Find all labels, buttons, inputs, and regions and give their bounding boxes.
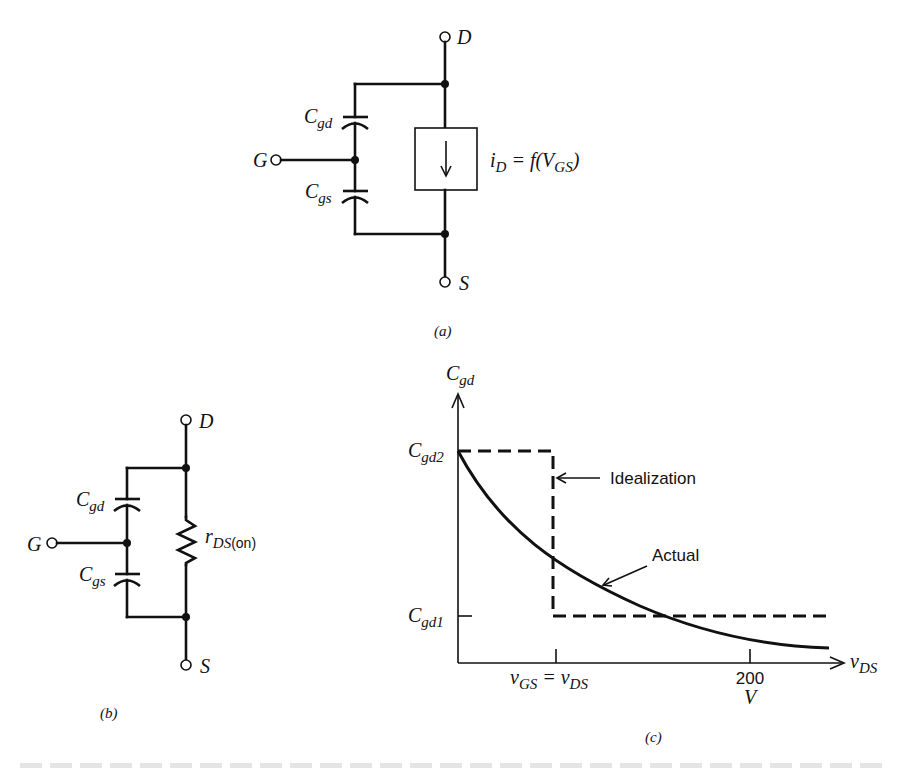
source-terminal-a [440,277,450,287]
gate-label-a: G [253,149,268,171]
idealization-annotation: Idealization [557,469,696,488]
mosfet-model-figure: D G S Cgd Cgs iD = f(VGS) (a) [0,0,902,768]
caption-a: (a) [434,323,452,340]
truncated-figure-caption [20,763,890,768]
cgs-label-b: Cgs [79,563,106,589]
source-terminal-b [181,660,191,670]
rds-on-label: rDS(on) [205,525,256,551]
ytick-cgd1: Cgd1 [408,604,444,630]
gate-label-b: G [27,533,42,555]
gate-terminal-a [271,155,281,165]
drain-terminal-b [181,415,191,425]
resistor-rds-on [178,517,195,565]
cgd-label-b: Cgd [76,488,105,514]
y-axis-label: Cgd [446,362,475,388]
cgs-label-a: Cgs [305,180,332,206]
xtick-unit-v: V [744,686,759,708]
drain-terminal-a [440,32,450,42]
svg-text:Actual: Actual [652,546,699,565]
source-junction-a [441,230,449,238]
xtick-vgs-eq-vds: vGS = vDS [510,666,588,692]
drain-label-b: D [198,410,214,432]
caption-b: (b) [100,705,118,722]
actual-annotation: Actual [603,546,699,586]
source-label-a: S [459,272,469,294]
gate-junction-a [351,156,359,164]
panel-a-circuit: D G S Cgd Cgs iD = f(VGS) (a) [253,26,580,340]
ytick-cgd2: Cgd2 [408,439,444,465]
gate-junction-b [123,539,131,547]
gate-terminal-b [47,538,57,548]
drain-label-a: D [456,26,472,48]
svg-text:Idealization: Idealization [610,469,696,488]
source-junction-b [182,613,190,621]
cgd-label-a: Cgd [304,105,333,131]
panel-c-chart: Idealization Actual Cgd vDS Cgd2 Cgd1 vG… [408,362,878,746]
current-source-label: iD = f(VGS) [490,149,580,175]
caption-c: (c) [645,729,662,746]
source-label-b: S [200,655,210,677]
x-axis-label: vDS [850,650,878,676]
panel-b-circuit: D G S Cgd Cgs rDS(on) (b) [27,410,256,722]
